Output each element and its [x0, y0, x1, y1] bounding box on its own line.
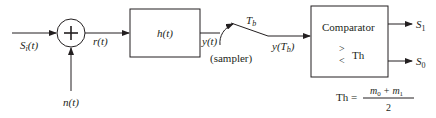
threshold-label: Th [352, 49, 365, 61]
output-s0-label: S0 [416, 55, 426, 70]
svg-text:Th =: Th = [336, 91, 357, 103]
comparator-block [311, 6, 388, 77]
summing-junction [57, 19, 85, 47]
filter-label: h(t) [157, 27, 173, 40]
svg-text:m0+m1: m0+m1 [370, 85, 404, 98]
sampler-time-label: Tb [246, 14, 256, 28]
block-diagram: Si(t) n(t) r(t) h(t) y(t) Tb (sampler) y… [0, 0, 436, 118]
output-s1-label: S1 [416, 18, 426, 33]
noise-label: n(t) [63, 96, 79, 109]
less-than-symbol: < [339, 55, 345, 66]
sampler-label: (sampler) [210, 52, 252, 65]
sampler-switch [231, 23, 310, 36]
filter-output-label: y(t) [201, 35, 218, 48]
svg-text:2: 2 [386, 102, 391, 113]
sampled-output-label: y(Tb) [271, 40, 295, 54]
greater-than-symbol: > [339, 43, 345, 54]
received-label: r(t) [93, 35, 108, 48]
comparator-title: Comparator [322, 21, 375, 33]
threshold-formula: Th = m0+m1 2 [336, 85, 414, 113]
sampler-arc [220, 24, 233, 45]
input-signal-label: Si(t) [20, 39, 38, 53]
